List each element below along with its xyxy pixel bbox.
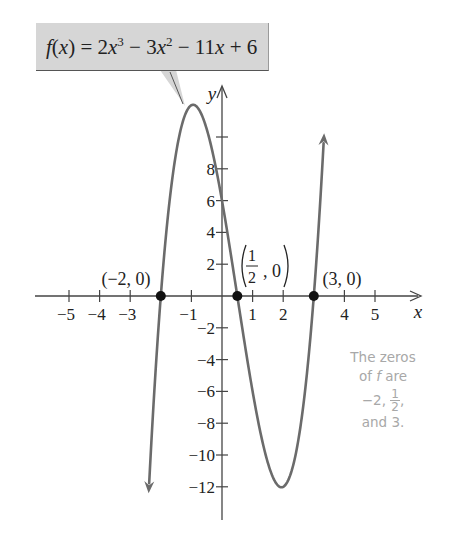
point-label-half: 1 2 , 0 xyxy=(242,245,288,287)
x-tick-label: 1 xyxy=(248,305,257,324)
y-tick-label: −10 xyxy=(188,446,215,465)
zero-point xyxy=(232,291,242,301)
x-tick-label: −4 xyxy=(88,305,107,324)
note-fraction: 12 xyxy=(390,388,400,413)
y-tick-label: 4 xyxy=(207,223,216,242)
callout-term: − 3 xyxy=(124,35,157,59)
y-tick-label: −6 xyxy=(197,382,215,401)
x-axis-label: x xyxy=(413,301,423,322)
note-text: are xyxy=(381,368,407,384)
x-tick-label: −5 xyxy=(57,305,75,324)
point-label-3: (3, 0) xyxy=(323,269,362,290)
callout-x: x xyxy=(59,35,68,59)
x-tick-label: −3 xyxy=(118,305,136,324)
y-tick-label: −4 xyxy=(197,351,216,370)
note-line: and 3. xyxy=(328,413,438,432)
y-tick-labels: −12−10−8−6−4−22468 xyxy=(188,160,215,497)
point-label-neg2: (−2, 0) xyxy=(101,269,150,290)
x-tick-label: 5 xyxy=(371,305,380,324)
y-tick-label: 6 xyxy=(207,192,216,211)
cubic-function-graph: −5−4−3−11245 −12−10−8−6−4−22468 x y (−2,… xyxy=(0,0,449,542)
y-tick-label: 2 xyxy=(207,255,216,274)
note-line: −2, 12, xyxy=(328,388,438,413)
note-line: The zeros xyxy=(328,348,438,367)
x-tick-label: 2 xyxy=(279,305,288,324)
zero-point xyxy=(309,291,319,301)
y-tick-label: −8 xyxy=(197,414,215,433)
svg-text:2: 2 xyxy=(248,269,256,286)
function-callout: f(x) = 2x3 − 3x2 − 11x + 6 xyxy=(36,23,269,71)
svg-text:1: 1 xyxy=(248,247,256,264)
x-tick-label: 4 xyxy=(340,305,349,324)
y-tick-label: −2 xyxy=(197,319,215,338)
note-text: of xyxy=(359,368,376,384)
callout-term: + 6 xyxy=(224,35,257,59)
callout-term: − 11 xyxy=(173,35,216,59)
callout-eq: = 2 xyxy=(75,35,108,59)
note-line: of f are xyxy=(328,367,438,386)
callout-x: x xyxy=(108,35,117,59)
callout-paren: ( xyxy=(52,35,59,59)
note-text: , xyxy=(400,392,404,408)
x-axis xyxy=(35,291,421,301)
x-tick-label: −1 xyxy=(179,305,197,324)
zeros-note: The zeros of f are −2, 12, and 3. xyxy=(328,348,438,432)
y-tick-label: −12 xyxy=(188,478,215,497)
fraction-denominator: 2 xyxy=(390,401,400,413)
x-tick-labels: −5−4−3−11245 xyxy=(57,305,379,324)
zero-point xyxy=(156,291,166,301)
callout-x: x xyxy=(157,35,166,59)
svg-text:, 0: , 0 xyxy=(263,261,281,281)
y-axis-label: y xyxy=(206,83,217,104)
note-text: −2, xyxy=(362,392,390,408)
